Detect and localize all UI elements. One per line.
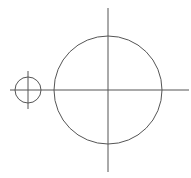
- circles-diagram: [0, 0, 191, 178]
